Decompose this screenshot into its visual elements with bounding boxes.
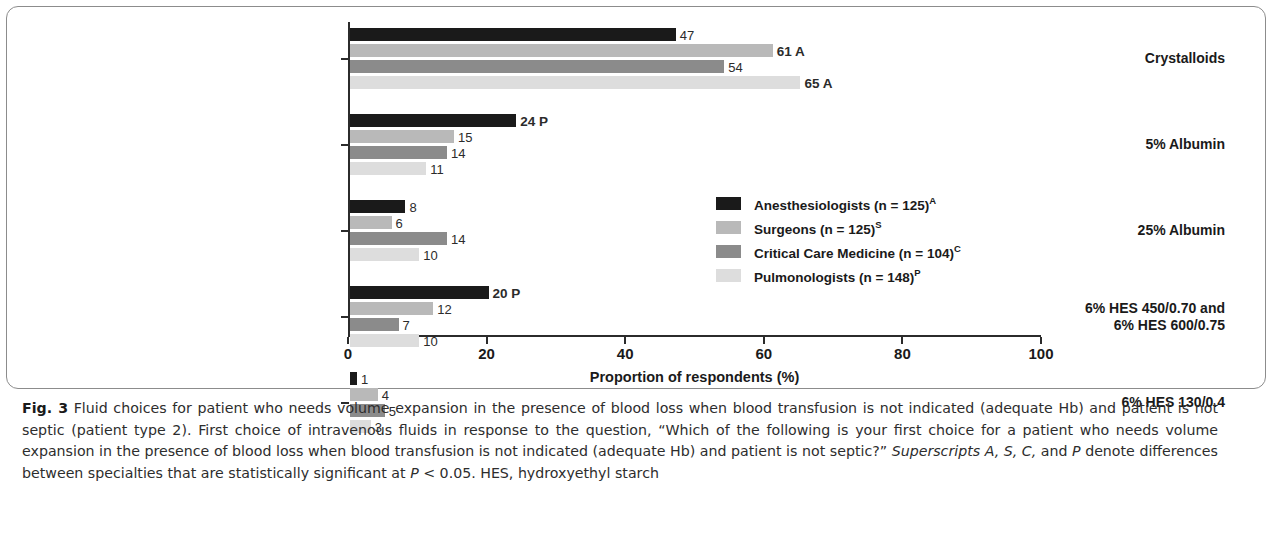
x-axis-tick — [1040, 337, 1042, 344]
x-axis-tick-label: 40 — [617, 345, 634, 362]
x-axis-tick-label: 100 — [1028, 345, 1053, 362]
bar-value-label: 10 — [423, 247, 437, 262]
bar-value-label: 1 — [361, 371, 368, 386]
x-axis-tick-label: 0 — [344, 345, 352, 362]
caption-italic-1: Superscripts A, S, C, — [892, 443, 1037, 459]
y-axis-tick — [341, 144, 349, 146]
x-axis-tick-label: 60 — [755, 345, 772, 362]
bar — [350, 76, 800, 89]
bar — [350, 200, 405, 213]
x-axis-tick — [486, 337, 488, 344]
legend-item: Surgeons (n = 125)S — [716, 220, 961, 235]
y-axis-tick — [341, 316, 349, 318]
bar — [350, 318, 399, 331]
bar-value-label: 47 — [680, 27, 694, 42]
bar-value-label: 14 — [451, 145, 465, 160]
legend-label: Critical Care Medicine (n = 104)C — [754, 243, 961, 261]
legend-item: Critical Care Medicine (n = 104)C — [716, 244, 961, 259]
x-axis-tick-label: 80 — [894, 345, 911, 362]
x-axis-tick — [901, 337, 903, 344]
category-label: 6% HES 450/0.70 and6% HES 600/0.75 — [897, 299, 1237, 334]
bar — [350, 28, 676, 41]
legend-superscript: P — [914, 267, 920, 278]
legend-item: Pulmonologists (n = 148)P — [716, 268, 961, 283]
bar-value-label: 65 A — [804, 75, 832, 90]
bar-value-label: 7 — [403, 317, 410, 332]
y-axis-tick — [341, 58, 349, 60]
legend-superscript: C — [954, 243, 961, 254]
bar — [350, 60, 724, 73]
legend-swatch — [716, 221, 741, 234]
category-label: Crystalloids — [897, 50, 1237, 68]
caption-figure-number: Fig. 3 — [22, 400, 68, 416]
legend-label: Anesthesiologists (n = 125)A — [754, 195, 936, 213]
legend-label: Pulmonologists (n = 148)P — [754, 267, 921, 285]
y-axis-tick — [341, 230, 349, 232]
legend-label: Surgeons (n = 125)S — [754, 219, 882, 237]
caption-text-2: and — [1036, 443, 1072, 459]
bar — [350, 302, 433, 315]
bar — [350, 114, 516, 127]
bar-value-label: 11 — [430, 161, 444, 176]
x-axis-tick — [347, 337, 349, 344]
legend-swatch — [716, 197, 741, 210]
legend-superscript: A — [929, 195, 936, 206]
bar — [350, 286, 489, 299]
bar-value-label: 8 — [409, 199, 416, 214]
bar — [350, 232, 447, 245]
bar-chart: Proportion of respondents (%) 0204060801… — [0, 0, 1237, 392]
bar — [350, 162, 426, 175]
bar — [350, 216, 392, 229]
bar-value-label: 6 — [396, 215, 403, 230]
bar — [350, 146, 447, 159]
bar-value-label: 54 — [728, 59, 742, 74]
figure-caption: Fig. 3 Fluid choices for patient who nee… — [22, 398, 1218, 484]
bar — [350, 372, 357, 385]
bar — [350, 248, 419, 261]
x-axis-tick-label: 20 — [478, 345, 495, 362]
bar — [350, 44, 773, 57]
legend-swatch — [716, 245, 741, 258]
bar — [350, 130, 454, 143]
legend-swatch — [716, 269, 741, 282]
x-axis-tick — [624, 337, 626, 344]
bar-value-label: 61 A — [777, 43, 805, 58]
caption-text-4: < 0.05. HES, hydroxyethyl starch — [419, 465, 659, 481]
x-axis-line — [348, 335, 1041, 337]
caption-italic-2: P — [1072, 443, 1081, 459]
bar-value-label: 24 P — [520, 113, 548, 128]
caption-italic-3: P — [410, 465, 419, 481]
category-label-line: Crystalloids — [897, 50, 1225, 68]
bar — [350, 334, 419, 347]
category-label-line: 6% HES 600/0.75 — [897, 317, 1225, 335]
bar-value-label: 10 — [423, 333, 437, 348]
bar-value-label: 14 — [451, 231, 465, 246]
bar-value-label: 20 P — [493, 285, 521, 300]
x-axis-tick — [763, 337, 765, 344]
category-label: 5% Albumin — [897, 136, 1237, 154]
category-label-line: 5% Albumin — [897, 136, 1225, 154]
x-axis-title: Proportion of respondents (%) — [348, 369, 1041, 385]
legend-item: Anesthesiologists (n = 125)A — [716, 196, 961, 211]
category-label-line: 6% HES 450/0.70 and — [897, 299, 1225, 317]
legend-superscript: S — [875, 219, 881, 230]
bar-value-label: 12 — [437, 301, 451, 316]
chart-legend: Anesthesiologists (n = 125)ASurgeons (n … — [716, 196, 961, 292]
bar-value-label: 15 — [458, 129, 472, 144]
